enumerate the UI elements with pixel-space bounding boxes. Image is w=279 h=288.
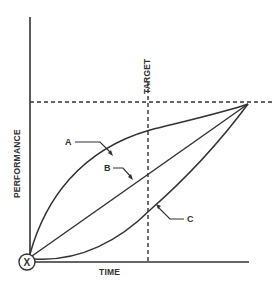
x-axis-label: TIME (99, 267, 120, 277)
target-label: TARGET (142, 58, 152, 94)
curve-b-label: B (104, 163, 111, 173)
curve-b (32, 104, 248, 256)
y-axis-label: PERFORMANCE (12, 129, 22, 198)
curve-a-label: A (65, 137, 72, 147)
curve-b-leader (113, 168, 131, 177)
curve-c-label: C (187, 214, 194, 224)
performance-time-diagram: A B C TARGET PERFORMANCE TIME X (0, 0, 279, 288)
curve-c-arrowhead (156, 204, 161, 209)
curve-a-leader (75, 142, 111, 153)
curve-c-leader (158, 207, 184, 219)
origin-label: X (24, 257, 31, 268)
